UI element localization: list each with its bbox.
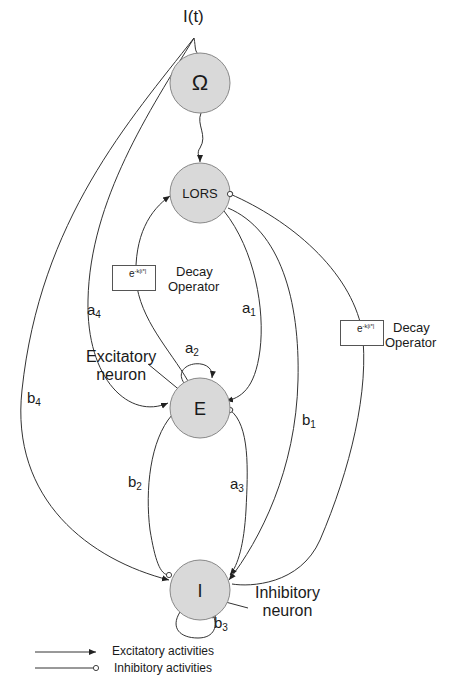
edge-lors-i-b1 [228,208,298,580]
coef-b1: b1 [302,412,316,430]
decay-operator-box-right: e-k|i*| [340,320,384,346]
decay-expr-right: e-k|i*| [357,323,374,334]
coef-a2: a2 [185,340,199,358]
coef-b2: b2 [128,474,142,492]
node-lors-label: LORS [170,187,230,200]
excitatory-neuron-label: Excitatoryneuron [86,348,156,384]
coef-b4: b4 [27,390,41,408]
decay-operator-label-right: DecayOperator [385,320,436,350]
edge-e-i-b2 [148,415,172,575]
input-label: I(t) [183,8,204,25]
edge-lors-i-decay [230,194,364,585]
legend-excitatory: Excitatory activities [112,645,214,657]
decay-operator-label-left: DecayOperator [168,264,219,294]
edge-input-omega [194,38,200,55]
decay-expr-left: e-k|i*| [129,268,146,279]
node-omega-label: Ω [170,72,230,94]
coef-a1: a1 [242,300,256,318]
coef-a4: a4 [87,302,101,320]
coef-b3: b3 [214,615,228,633]
node-e-label: E [170,400,230,418]
legend-inhibitory: Inhibitory activities [114,662,212,674]
decay-operator-box-left: e-k|i*| [112,265,156,291]
edge-input-i-b4 [21,38,194,580]
coef-a3: a3 [230,476,244,494]
inhibitory-neuron-label: Inhibitoryneuron [255,584,320,620]
edge-omega-lors [198,113,203,162]
node-i-label: I [170,582,230,600]
